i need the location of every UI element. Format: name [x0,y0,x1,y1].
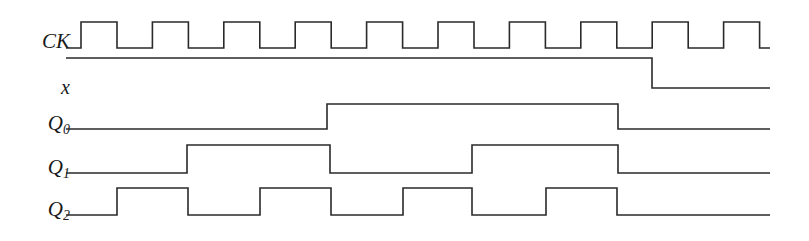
waveform-q2 [66,188,770,215]
waveform-q1 [66,145,770,173]
waveform-q0 [66,104,770,129]
waveform-ck [66,22,770,48]
timing-diagram: CK x Q0 Q1 Q2 [0,0,809,241]
waveform-canvas [0,0,809,241]
waveform-x [66,58,770,88]
